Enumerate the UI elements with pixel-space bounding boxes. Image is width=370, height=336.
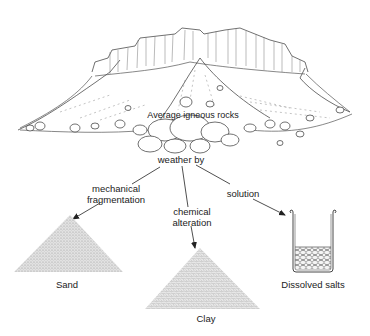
product-sand-label: Sand — [56, 279, 78, 290]
branch-chemical-line2: alteration — [172, 217, 211, 228]
branch-chemical-line1: chemical — [173, 206, 211, 217]
beaker-icon — [290, 210, 336, 272]
product-clay-label: Clay — [196, 313, 215, 324]
product-dissolved-salts-label: Dissolved salts — [281, 279, 344, 290]
process-label: weather by — [158, 154, 204, 165]
source-label: Average igneous rocks — [147, 110, 238, 121]
mountain-illustration — [18, 28, 352, 153]
branch-solution-label: solution — [227, 188, 260, 199]
sand-pile — [14, 215, 123, 272]
branch-mechanical-line2: fragmentation — [87, 194, 145, 205]
clay-pile — [145, 248, 260, 309]
branch-mechanical-line1: mechanical — [92, 183, 140, 194]
